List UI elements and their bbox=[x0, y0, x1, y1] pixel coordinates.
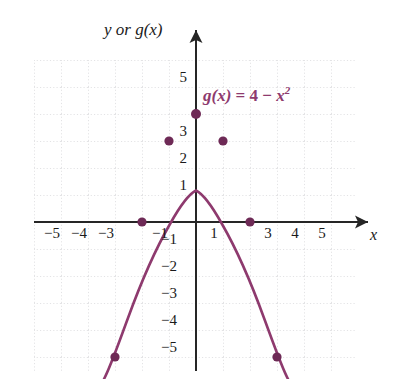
y-tick-label: −5 bbox=[153, 339, 177, 356]
y-tick-label: −3 bbox=[153, 285, 177, 302]
y-tick-label: 1 bbox=[163, 177, 187, 194]
y-tick-label: −4 bbox=[153, 312, 177, 329]
y-axis-label: y or g(x) bbox=[104, 20, 163, 40]
x-tick-label: −5 bbox=[39, 225, 65, 242]
function-exponent: 2 bbox=[285, 84, 291, 96]
coordinate-plane bbox=[0, 0, 397, 379]
y-tick-label: 3 bbox=[163, 123, 187, 140]
x-tick-label: 1 bbox=[201, 225, 227, 242]
x-tick-label: 3 bbox=[255, 225, 281, 242]
x-tick-label: 5 bbox=[309, 225, 335, 242]
function-variable: x bbox=[276, 86, 285, 105]
function-lhs: g(x) bbox=[203, 86, 231, 105]
function-constant: 4 bbox=[250, 86, 259, 105]
minus-sign: − bbox=[262, 86, 272, 105]
y-tick-label: 2 bbox=[163, 150, 187, 167]
y-tick-label: −2 bbox=[153, 258, 177, 275]
x-axis-label: x bbox=[370, 226, 377, 244]
equals-sign: = bbox=[236, 86, 246, 105]
y-tick-label: −1 bbox=[153, 231, 177, 248]
x-tick-label: −4 bbox=[66, 225, 92, 242]
function-equation-label: g(x) = 4 − x2 bbox=[203, 84, 290, 106]
x-tick-label: 4 bbox=[282, 225, 308, 242]
graph-figure: y or g(x) x −5 −4 −3 −1 1 3 4 5 5 3 2 1 … bbox=[0, 0, 397, 379]
y-tick-label: 5 bbox=[163, 69, 187, 86]
x-tick-label: −3 bbox=[93, 225, 119, 242]
